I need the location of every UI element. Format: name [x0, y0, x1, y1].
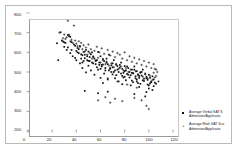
scatter-svg [0, 0, 238, 150]
scatter-overlay [0, 0, 238, 150]
